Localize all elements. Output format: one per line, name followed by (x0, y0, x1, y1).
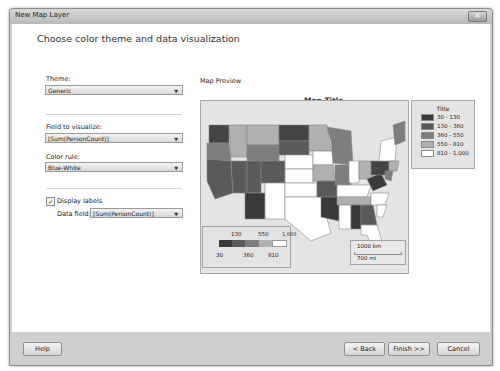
legend-item: 130 - 360 (421, 123, 463, 130)
color-rule-label: Color rule: (46, 153, 80, 161)
field-to-visualize-value: [Sum(PersonCount)] (48, 135, 109, 142)
chevron-down-icon: ▼ (174, 86, 178, 96)
legend-item-label: 810 - 1,000 (437, 150, 469, 156)
legend-swatch (421, 141, 434, 148)
map-preview-label: Map Preview (200, 77, 241, 85)
legend-title: Title (412, 105, 474, 112)
legend-swatch (421, 150, 434, 157)
map-legend: Title 30 - 130 130 - 360 360 - 550 550 -… (411, 100, 475, 169)
divider (46, 188, 182, 189)
legend-swatch (421, 132, 434, 139)
chevron-down-icon: ▼ (174, 134, 178, 144)
data-field-value: [Sum(PersonCount)] (93, 210, 154, 217)
page-heading: Choose color theme and data visualizatio… (37, 33, 240, 44)
color-rule-value: Blue-White (48, 164, 81, 171)
distance-mi: 700 mi (357, 255, 376, 261)
display-labels-label: Display labels (57, 197, 102, 205)
data-field-label: Data field: (57, 210, 91, 218)
legend-swatch (421, 123, 434, 130)
display-labels-checkbox[interactable]: ✓ (46, 197, 55, 206)
color-scale: 130 550 1,000 30 360 810 (202, 226, 291, 268)
legend-item: 810 - 1,000 (421, 150, 469, 157)
scale-tick: 360 (243, 252, 254, 258)
legend-item-label: 130 - 360 (437, 123, 463, 129)
distance-km: 1000 km (357, 243, 381, 249)
legend-item: 30 - 130 (421, 114, 460, 121)
theme-label: Theme: (46, 75, 71, 83)
window-title: New Map Layer (15, 11, 69, 19)
distance-scale: 1000 km 700 mi (350, 240, 406, 265)
theme-value: Generic (48, 87, 71, 94)
finish-button[interactable]: Finish >> (388, 342, 430, 356)
scale-tick: 810 (268, 252, 279, 258)
legend-item-label: 550 - 810 (437, 141, 463, 147)
back-button[interactable]: < Back (344, 342, 385, 356)
scale-bar (219, 240, 287, 247)
color-rule-select[interactable]: Blue-White ▼ (45, 162, 183, 172)
check-icon: ✓ (48, 198, 53, 205)
scale-tick: 130 (231, 231, 242, 237)
help-button[interactable]: Help (23, 342, 62, 356)
scale-tick: 30 (216, 252, 223, 258)
scale-tick: 550 (258, 231, 269, 237)
close-button[interactable]: ✕ (468, 11, 487, 22)
legend-item: 360 - 550 (421, 132, 463, 139)
chevron-down-icon: ▼ (174, 209, 178, 219)
chevron-down-icon: ▼ (174, 163, 178, 173)
close-icon: ✕ (475, 12, 481, 20)
cancel-button[interactable]: Cancel (437, 342, 480, 356)
theme-select[interactable]: Generic ▼ (45, 85, 183, 95)
legend-item: 550 - 810 (421, 141, 463, 148)
legend-item-label: 360 - 550 (437, 132, 463, 138)
divider (46, 114, 182, 115)
data-field-select[interactable]: [Sum(PersonCount)] ▼ (90, 208, 183, 218)
field-to-visualize-select[interactable]: [Sum(PersonCount)] ▼ (45, 133, 183, 143)
legend-swatch (421, 114, 434, 121)
scale-tick: 1,000 (282, 231, 296, 237)
legend-item-label: 30 - 130 (437, 114, 460, 120)
field-to-visualize-label: Field to visualize: (46, 123, 102, 131)
title-bar: New Map Layer ✕ (10, 9, 492, 24)
